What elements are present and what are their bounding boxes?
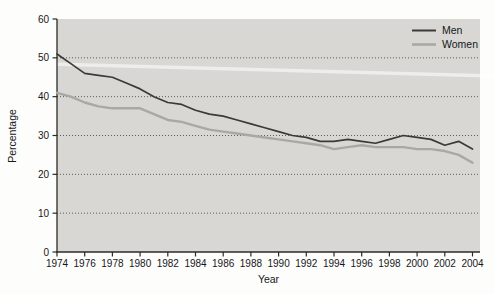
women-legend-label: Women	[442, 38, 478, 50]
x-tick-label: 1992	[295, 258, 318, 269]
chart-canvas: 0102030405060 19741976197819801982198419…	[0, 0, 494, 294]
x-tick-label: 1984	[184, 258, 207, 269]
y-tick-label: 50	[38, 52, 50, 63]
x-axis	[56, 252, 480, 257]
x-tick-label: 1986	[212, 258, 235, 269]
x-tick-labels: 1974197619781980198219841986198819901992…	[46, 258, 484, 269]
x-tick-label: 1982	[157, 258, 180, 269]
y-tick-label: 40	[38, 91, 50, 102]
x-tick-label: 2002	[434, 258, 457, 269]
y-tick-label: 60	[38, 14, 50, 25]
y-tick-label: 0	[43, 247, 49, 258]
x-tick-label: 1978	[101, 258, 124, 269]
x-tick-label: 1988	[240, 258, 263, 269]
x-tick-label: 1996	[351, 258, 374, 269]
x-tick-label: 1990	[267, 258, 290, 269]
x-axis-title: Year	[258, 273, 280, 285]
x-tick-label: 1994	[323, 258, 346, 269]
y-tick-label: 30	[38, 130, 50, 141]
y-tick-label: 10	[38, 208, 50, 219]
line-chart-figure: 0102030405060 19741976197819801982198419…	[0, 0, 494, 294]
y-tick-labels: 0102030405060	[38, 14, 50, 258]
x-tick-label: 2000	[406, 258, 429, 269]
y-tick-label: 20	[38, 169, 50, 180]
x-tick-label: 1998	[378, 258, 401, 269]
x-tick-label: 1976	[74, 258, 97, 269]
men-legend-label: Men	[442, 24, 463, 36]
x-tick-label: 2004	[461, 258, 484, 269]
y-axis-title: Percentage	[6, 109, 18, 163]
x-tick-label: 1980	[129, 258, 152, 269]
x-tick-label: 1974	[46, 258, 69, 269]
